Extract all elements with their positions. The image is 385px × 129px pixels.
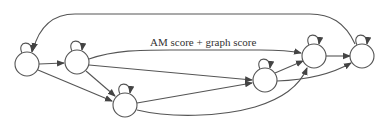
edge-n4-n5: [275, 61, 303, 73]
edge-n1-n2: [39, 63, 64, 64]
node-n6: [350, 44, 374, 68]
edge-n3-n5: [137, 68, 307, 115]
edge-n2-n4: [89, 65, 252, 80]
graph-diagram: AM score + graph score: [0, 0, 385, 129]
node-n1: [15, 52, 39, 76]
edge-n2-n5-labelled: [89, 50, 301, 59]
edge-n3-n4: [137, 83, 252, 103]
edge-n1-n3: [38, 70, 112, 101]
node-n3: [113, 93, 137, 117]
node-n5: [302, 44, 326, 68]
edge-label: AM score + graph score: [150, 36, 257, 48]
graph-svg: AM score + graph score: [0, 0, 385, 129]
node-n2: [65, 50, 89, 74]
node-n4: [253, 68, 277, 92]
